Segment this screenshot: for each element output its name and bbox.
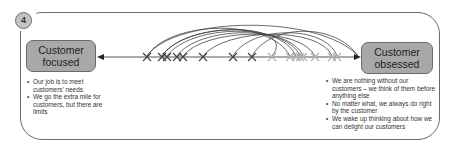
bullet-item: No matter what, we always do right by th… [326, 100, 436, 115]
left-arrowhead-icon [97, 54, 104, 60]
bullet-item: We go the extra mile for customers, but … [27, 93, 107, 116]
customer-obsessed-bullets: We are nothing without our customers – w… [326, 77, 436, 130]
customer-focused-node: Customer focused [26, 40, 96, 72]
customer-obsessed-node: Customer obsessed [361, 42, 433, 74]
node-label-line1: Customer [374, 46, 420, 58]
bullet-item: We wake up thinking about how we can del… [326, 115, 436, 130]
bullet-item: Our job is to meet customers' needs [27, 78, 107, 93]
node-label-line2: obsessed [374, 58, 420, 70]
node-label-line1: Customer [38, 44, 84, 56]
node-label-line2: focused [38, 56, 84, 68]
customer-focused-bullets: Our job is to meet customers' needs We g… [27, 78, 107, 116]
bullet-item: We are nothing without our customers – w… [326, 77, 436, 100]
